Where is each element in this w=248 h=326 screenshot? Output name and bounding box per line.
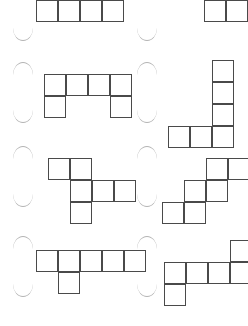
polyomino-cell [114, 180, 136, 202]
polyomino-cell [206, 180, 228, 202]
polyomino-cell [80, 0, 102, 22]
polyomino-cell [184, 202, 206, 224]
arc-r2-c1-top-icon [13, 62, 33, 75]
polyomino-cell [226, 0, 248, 22]
arc-r3-c1-bottom-icon [13, 194, 33, 207]
polyomino-cell [70, 158, 92, 180]
arc-r4-c2-bottom-icon [137, 284, 157, 297]
polyomino-cell [164, 284, 186, 306]
polyomino-cell [164, 262, 186, 284]
polyomino-cell [110, 74, 132, 96]
polyomino-cell [162, 202, 184, 224]
polyomino-cell [206, 158, 228, 180]
polyomino-cell [110, 96, 132, 118]
arc-r2-c2-bottom-icon [137, 110, 157, 123]
polyomino-cell [70, 180, 92, 202]
polyomino-cell [228, 158, 248, 180]
arc-r1-c1-icon [13, 28, 33, 41]
arc-r2-c1-bottom-icon [13, 110, 33, 123]
polyomino-cell [190, 126, 212, 148]
polyomino-cell [186, 262, 208, 284]
polyomino-cell [212, 104, 234, 126]
polyomino-cell [44, 74, 66, 96]
polyomino-cell [58, 250, 80, 272]
arc-r4-c1-top-icon [13, 236, 33, 249]
worksheet-canvas [0, 0, 248, 326]
polyomino-cell [102, 0, 124, 22]
polyomino-cell [80, 250, 102, 272]
polyomino-cell [36, 0, 58, 22]
polyomino-cell [36, 250, 58, 272]
arc-r3-c2-top-icon [137, 146, 157, 159]
arc-r2-c2-top-icon [137, 62, 157, 75]
polyomino-cell [48, 158, 70, 180]
arc-r1-c2-icon [137, 28, 157, 41]
polyomino-cell [66, 74, 88, 96]
polyomino-cell [58, 0, 80, 22]
polyomino-cell [88, 74, 110, 96]
polyomino-cell [204, 0, 226, 22]
polyomino-cell [230, 240, 248, 262]
polyomino-cell [44, 96, 66, 118]
polyomino-cell [92, 180, 114, 202]
polyomino-cell [58, 272, 80, 294]
polyomino-cell [212, 60, 234, 82]
polyomino-cell [184, 180, 206, 202]
polyomino-cell [230, 262, 248, 284]
polyomino-cell [70, 202, 92, 224]
arc-r4-c2-top-icon [137, 236, 157, 249]
arc-r4-c1-bottom-icon [13, 284, 33, 297]
polyomino-cell [168, 126, 190, 148]
polyomino-cell [124, 250, 146, 272]
polyomino-cell [102, 250, 124, 272]
arc-r3-c2-bottom-icon [137, 194, 157, 207]
polyomino-cell [212, 82, 234, 104]
polyomino-cell [212, 126, 234, 148]
arc-r3-c1-top-icon [13, 146, 33, 159]
polyomino-cell [208, 262, 230, 284]
